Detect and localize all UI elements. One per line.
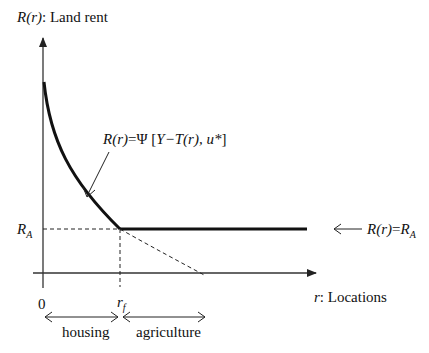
agricultural-rent-equation: R(r)=RA [366,221,417,240]
ra-tick-label: RA [16,221,33,240]
bid-rent-equation: R(r)=Ψ [Y−T(r), u*] [102,131,226,148]
agriculture-zone-label: agriculture [136,324,201,340]
flat-annotation-arrow [334,224,362,234]
bid-rent-curve [44,82,120,229]
bid-rent-curve-continuation [120,229,206,276]
housing-zone-label: housing [62,324,110,340]
housing-zone-arrow [45,312,118,322]
y-axis-label: R(r): Land rent [16,9,109,26]
origin-label: 0 [38,296,46,312]
agriculture-zone-arrow [123,312,205,322]
x-axis-label: r: Locations [314,289,387,305]
land-rent-diagram: R(r): Land rent RA R(r)=Ψ [Y−T(r), u*] R… [0,0,429,353]
rf-tick-label: rf [117,294,127,313]
